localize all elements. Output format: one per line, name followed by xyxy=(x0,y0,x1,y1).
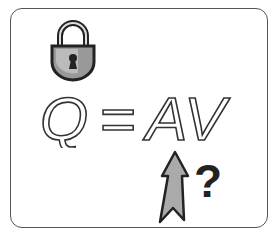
arrow-up-icon xyxy=(156,150,190,224)
lock-icon xyxy=(48,18,98,82)
svg-text:AV: AV xyxy=(142,88,231,148)
svg-text:=: = xyxy=(100,88,136,148)
equation-q-equals-av: Q = AV xyxy=(40,88,240,148)
svg-text:Q: Q xyxy=(40,88,88,148)
question-mark: ? xyxy=(194,158,222,204)
